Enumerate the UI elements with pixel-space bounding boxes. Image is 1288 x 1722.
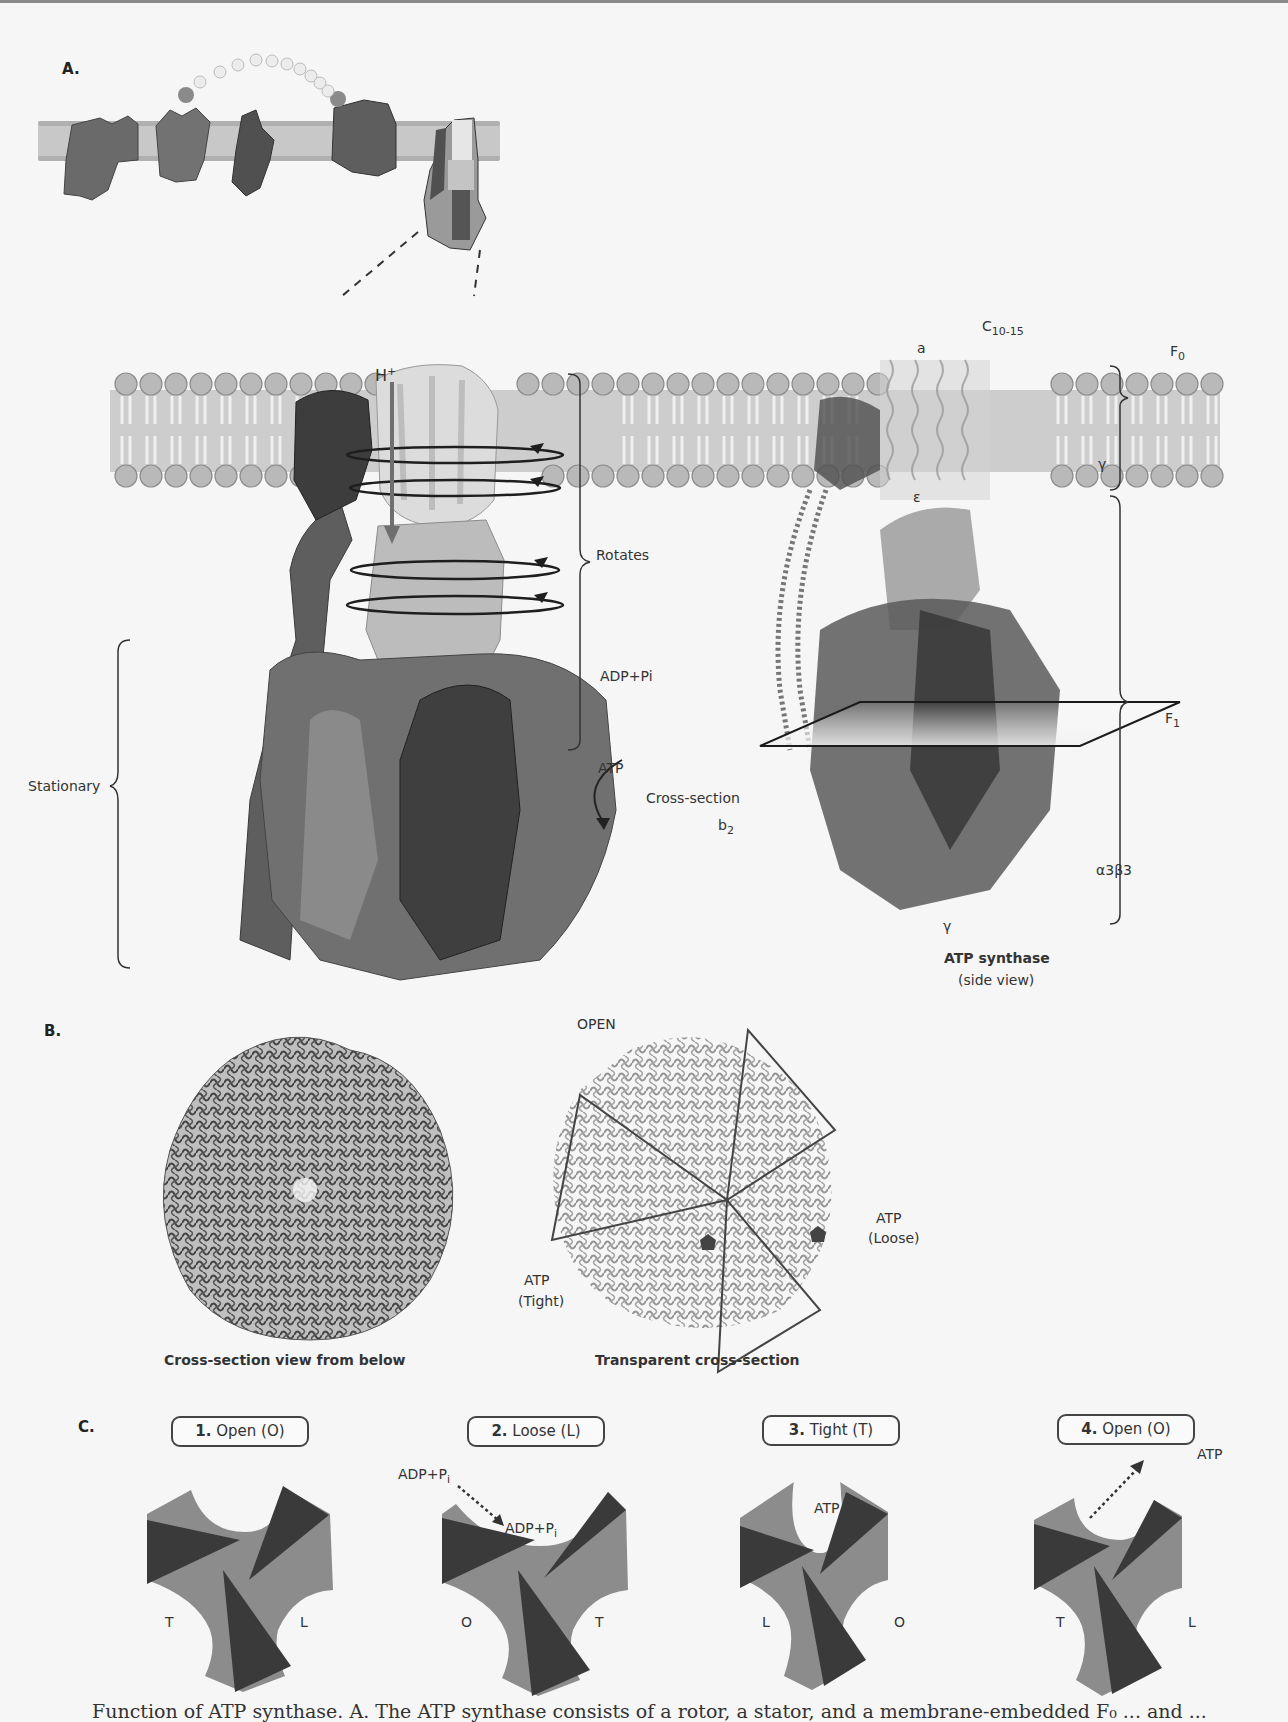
atp-synthase-subtitle: (side view) (958, 972, 1034, 988)
cross-section-below-illustration (140, 1020, 480, 1360)
stage-4-dotted-arrow (1080, 1448, 1160, 1528)
stage-2-substrate-site: ADP+Pi (505, 1520, 557, 1540)
stage-3-site-label: ATP (814, 1500, 839, 1516)
atp-synthase-surface-model (0, 340, 640, 980)
stage-4-right-label: L (1188, 1614, 1196, 1630)
atp-synthase-title: ATP synthase (944, 950, 1050, 966)
cross-section-below-caption: Cross-section view from below (164, 1352, 406, 1368)
proton-label: H+ (375, 365, 396, 385)
substrate-label: ADP+Pi (600, 668, 653, 684)
panel-c-label: C. (78, 1418, 95, 1436)
alpha3beta3-label: α3β3 (1096, 862, 1132, 878)
stage-1-right-label: L (300, 1614, 308, 1630)
panel-b-label: B. (44, 1022, 61, 1040)
stage-2-dotted-arrow (440, 1480, 510, 1540)
a-subunit-label: a (917, 340, 926, 356)
stage-2-box: 2. Loose (L) (467, 1416, 605, 1447)
product-label: ATP (598, 760, 623, 776)
stage-3-left-label: L (762, 1614, 770, 1630)
b2-label: b2 (718, 817, 734, 837)
stage-3-box: 3. Tight (T) (762, 1415, 900, 1446)
overview-membrane-illustration (0, 0, 640, 300)
gamma-bottom-label: γ (943, 918, 951, 934)
stage-4-left-label: T (1056, 1614, 1065, 1630)
stage-1-diagram (145, 1480, 345, 1680)
f0-label: F0 (1170, 343, 1185, 363)
stage-2-left-label: O (461, 1614, 472, 1630)
loose-atp-label: ATP (876, 1210, 901, 1226)
stage-4-box: 4. Open (O) (1057, 1414, 1195, 1445)
open-label: OPEN (577, 1016, 616, 1032)
transparent-cross-section-caption: Transparent cross-section (595, 1352, 800, 1368)
epsilon-label: ε (913, 489, 921, 505)
figure-caption-partial: Function of ATP synthase. A. The ATP syn… (92, 1700, 1288, 1722)
cross-section-label: Cross-section (646, 790, 740, 806)
tight-state-label: (Tight) (518, 1293, 564, 1309)
stage-2-right-label: T (595, 1614, 604, 1630)
gamma-top-label: γ (1098, 456, 1106, 472)
stage-1-left-label: T (165, 1614, 174, 1630)
stage-4-product-out: ATP (1197, 1446, 1222, 1462)
stage-1-box: 1. Open (O) (171, 1416, 309, 1447)
c-ring-label: C10-15 (982, 318, 1024, 338)
tight-atp-label: ATP (524, 1272, 549, 1288)
loose-state-label: (Loose) (868, 1230, 920, 1246)
stationary-label: Stationary (28, 778, 100, 794)
rotates-label: Rotates (596, 547, 649, 563)
transparent-cross-section-illustration (520, 1000, 860, 1360)
atp-synthase-ribbon-model (780, 330, 1288, 970)
f1-label: F1 (1165, 710, 1180, 730)
stage-3-right-label: O (894, 1614, 905, 1630)
